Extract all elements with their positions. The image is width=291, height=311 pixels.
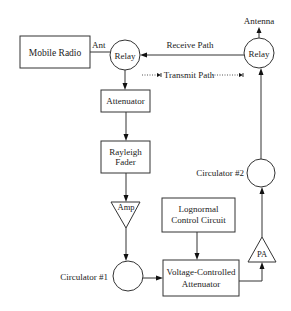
arrowhead-icon [257, 27, 262, 33]
vca-label-line2: Attenuator [182, 279, 221, 289]
relay-left-label: Relay [115, 51, 136, 61]
arrowhead-icon [259, 68, 264, 75]
mobile-radio-label: Mobile Radio [29, 48, 82, 58]
arrowhead-icon [140, 53, 147, 58]
arrowhead-icon [157, 73, 161, 77]
amp-block: Amp [111, 202, 140, 228]
circulator-1-label: Circulator #1 [60, 272, 108, 282]
receive-path-label: Receive Path [166, 40, 214, 50]
attenuator-block: Attenuator [101, 90, 150, 112]
lognormal-label-line2: Control Circuit [171, 215, 226, 225]
amp-label: Amp [118, 202, 135, 212]
arrowhead-icon [195, 253, 200, 260]
arrowhead-icon [124, 254, 129, 261]
rayleigh-fader-label-line1: Rayleigh [109, 147, 142, 157]
vca-label-line1: Voltage-Controlled [167, 267, 236, 277]
arrowhead-icon [124, 134, 129, 141]
connector [239, 268, 262, 281]
vca-block: Voltage-Controlled Attenuator [163, 260, 239, 296]
circulator-1 [113, 261, 143, 291]
lognormal-label-line1: Lognormal [179, 204, 219, 214]
ant-label: Ant [92, 40, 106, 50]
arrowhead-icon [156, 276, 163, 281]
antenna-label: Antenna [244, 16, 275, 26]
circulator-2 [247, 159, 275, 187]
arrowhead-icon [239, 73, 243, 77]
attenuator-label: Attenuator [106, 96, 145, 106]
pa-block: PA [248, 237, 276, 262]
pa-label: PA [257, 249, 268, 259]
lognormal-control-block: Lognormal Control Circuit [162, 198, 235, 232]
circulator-2-label: Circulator #2 [196, 168, 244, 178]
relay-left: Relay [110, 40, 140, 70]
rayleigh-fader-label-line2: Fader [115, 157, 136, 167]
arrowhead-icon [124, 195, 129, 202]
relay-right-label: Relay [249, 49, 270, 59]
transmit-path-label: Transmit Path [164, 70, 215, 80]
arrowhead-icon [123, 83, 128, 90]
rayleigh-fader-block: Rayleigh Fader [101, 141, 150, 173]
arrowhead-icon [260, 187, 265, 194]
arrowhead-icon [260, 262, 265, 269]
block-diagram: Mobile Radio Ant Relay Relay Antenna Rec… [0, 0, 291, 311]
mobile-radio-block: Mobile Radio [20, 36, 90, 68]
relay-right: Relay [244, 38, 274, 68]
